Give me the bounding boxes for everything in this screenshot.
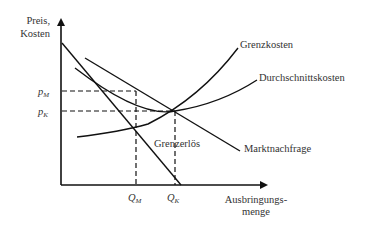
average-cost-curve [75, 68, 257, 112]
qm-label: QM [128, 192, 143, 205]
y-axis-label-line1: Preis, [26, 15, 50, 26]
economics-diagram: Preis, Kosten Ausbringungs- menge pM pK … [0, 0, 378, 229]
qk-label: QK [167, 192, 180, 205]
marginal-revenue-line [62, 43, 181, 185]
marginal-revenue-label: Grenzerlös [154, 138, 200, 149]
pk-label: pK [37, 106, 48, 119]
pm-label: pM [37, 86, 50, 99]
demand-label: Marktnachfrage [244, 143, 311, 154]
x-axis-label-line1: Ausbringungs- [225, 194, 288, 205]
marginal-cost-label: Grenzkosten [240, 39, 294, 50]
x-axis-label-line2: menge [242, 206, 270, 217]
average-cost-label: Durchschnittskosten [259, 72, 345, 83]
marginal-cost-curve [77, 48, 238, 137]
y-axis-label-line2: Kosten [20, 28, 50, 39]
